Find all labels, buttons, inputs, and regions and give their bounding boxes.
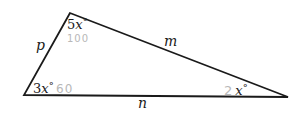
side-p-label: p — [36, 37, 45, 53]
side-m-label: m — [164, 33, 177, 49]
triangle-diagram: 5x° 100 3x° 60 2x° p m n — [0, 0, 306, 114]
angle-bottom-left-label: 3x° — [33, 80, 54, 96]
angle-bottom-right-label: 2x° — [224, 82, 248, 98]
angle-top-annotation: 100 — [67, 33, 89, 44]
angle-top-label: 5x° — [67, 16, 88, 32]
side-n-label: n — [138, 95, 147, 111]
angle-bottom-left-annotation: 60 — [56, 82, 73, 96]
